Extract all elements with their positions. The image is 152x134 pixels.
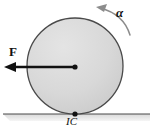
- force-label: F: [9, 45, 17, 58]
- instant-center-label: IC: [66, 116, 77, 127]
- disk-center-point: [72, 64, 77, 69]
- physics-figure: F α IC: [0, 0, 152, 134]
- angular-acceleration-arrowhead: [96, 4, 107, 12]
- figure-canvas: [0, 0, 152, 134]
- force-vector-arrowhead: [4, 62, 16, 72]
- angular-acceleration-label: α: [116, 6, 123, 19]
